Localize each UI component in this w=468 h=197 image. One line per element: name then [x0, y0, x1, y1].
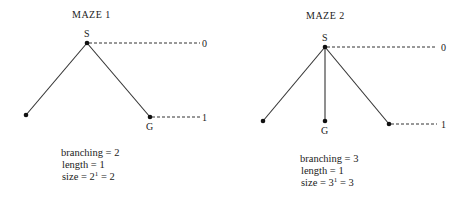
maze1-length: length = 1	[61, 159, 119, 171]
maze2-size: size = 31 = 3	[300, 177, 358, 189]
maze1-level1-label: 1	[202, 112, 207, 123]
maze2-goal-node	[323, 119, 328, 124]
maze2-edge-right	[325, 47, 389, 124]
maze2-level1-label: 1	[441, 119, 446, 130]
maze1-goal-node	[148, 115, 153, 120]
maze2-leaf-left-node	[261, 119, 266, 124]
maze1-edge-left	[26, 43, 87, 115]
maze1-title: MAZE 1	[72, 9, 111, 20]
maze1-diagram: MAZE 1 S G 0 1	[24, 9, 207, 132]
maze2-length: length = 1	[300, 165, 358, 177]
maze1-start-label: S	[84, 28, 90, 39]
maze2-diagram: MAZE 2 S G 0 1	[261, 10, 446, 136]
maze2-branching: branching = 3	[300, 153, 358, 165]
maze2-stats: branching = 3 length = 1 size = 31 = 3	[300, 153, 358, 189]
maze1-level0-label: 0	[202, 38, 207, 49]
maze2-title: MAZE 2	[306, 10, 345, 21]
maze2-goal-label: G	[321, 125, 328, 136]
maze1-leaf-node	[24, 113, 29, 118]
maze2-start-node	[323, 45, 328, 50]
maze2-edge-left	[263, 47, 325, 121]
maze2-level0-label: 0	[441, 42, 446, 53]
maze2-leaf-right-node	[387, 122, 392, 127]
maze1-goal-label: G	[146, 121, 153, 132]
maze1-stats: branching = 2 length = 1 size = 21 = 2	[61, 147, 119, 183]
maze1-branching: branching = 2	[61, 147, 119, 159]
maze1-edge-goal	[87, 43, 150, 117]
maze1-start-node	[85, 41, 90, 46]
maze1-size: size = 21 = 2	[61, 171, 119, 183]
maze2-start-label: S	[322, 32, 328, 43]
